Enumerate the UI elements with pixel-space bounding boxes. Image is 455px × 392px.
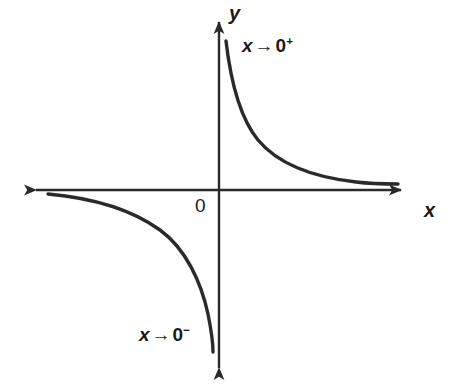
limit-minus-arrow-icon: →: [150, 324, 173, 345]
limit-minus-sign: −: [183, 323, 190, 336]
origin-label: 0: [195, 196, 206, 215]
limit-plus-variable: x: [242, 35, 253, 56]
curve-branch-quadrant-one: [226, 41, 398, 184]
limit-from-left-annotation: x→0−: [139, 324, 190, 344]
hyperbola-plot: [0, 0, 455, 392]
limit-minus-variable: x: [139, 324, 150, 345]
limit-graph-figure: y x 0 x→0+ x→0−: [0, 0, 455, 392]
limit-plus-value: 0: [276, 35, 287, 56]
x-axis-label: x: [424, 200, 435, 220]
limit-plus-arrow-icon: →: [253, 35, 276, 56]
limit-minus-value: 0: [173, 324, 184, 345]
limit-from-right-annotation: x→0+: [242, 35, 293, 55]
y-axis-label: y: [229, 3, 240, 23]
limit-plus-sign: +: [286, 34, 293, 47]
